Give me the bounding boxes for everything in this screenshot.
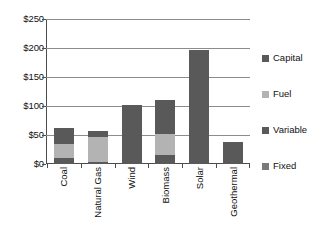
- y-axis-tick-label: $0: [0, 159, 44, 169]
- y-axis-tick-mark: [42, 164, 46, 165]
- bar-segment-fuel: [155, 134, 175, 155]
- bar-segment-fuel: [54, 144, 74, 159]
- y-axis-tick-label: $250: [0, 14, 44, 24]
- plot-area: [46, 19, 250, 164]
- legend-swatch-icon: [262, 163, 269, 170]
- x-label-slot: Natural Gas: [81, 167, 115, 239]
- x-axis-tick-labels: CoalNatural GasWindBiomassSolarGeotherma…: [47, 167, 251, 239]
- bar-solar[interactable]: [189, 50, 209, 164]
- y-axis-tick-mark: [42, 77, 46, 78]
- legend-label: Fixed: [273, 161, 296, 171]
- bar-segment-fuel: [88, 137, 108, 162]
- y-axis-tick-mark: [42, 19, 46, 20]
- legend-swatch-icon: [262, 91, 269, 98]
- bar-slot: [81, 19, 115, 164]
- bar-group: [47, 19, 250, 164]
- bar-segment-variable: [54, 158, 74, 164]
- y-axis-tick-label: $200: [0, 43, 44, 53]
- bar-segment-capital: [155, 100, 175, 134]
- y-axis-tick-mark: [42, 135, 46, 136]
- bar-slot: [115, 19, 149, 164]
- bar-segment-variable: [88, 162, 108, 164]
- legend-label: Fuel: [273, 89, 291, 99]
- y-axis-tick-mark: [42, 106, 46, 107]
- x-label-slot: Coal: [47, 167, 81, 239]
- x-axis-label-wind: Wind: [127, 167, 137, 189]
- bar-geothermal[interactable]: [223, 142, 243, 164]
- x-axis-label-natural-gas: Natural Gas: [93, 167, 103, 218]
- legend-label: Variable: [273, 125, 307, 135]
- x-axis-label-solar: Solar: [195, 167, 205, 189]
- bar-segment-capital: [122, 105, 142, 164]
- bar-segment-capital: [54, 128, 74, 144]
- legend-label: Capital: [273, 53, 303, 63]
- legend-item-fixed[interactable]: Fixed: [262, 148, 328, 184]
- legend-swatch-icon: [262, 55, 269, 62]
- chart-legend: CapitalFuelVariableFixed: [262, 40, 328, 184]
- bar-slot: [148, 19, 182, 164]
- x-label-slot: Geothermal: [217, 167, 251, 239]
- x-axis-label-coal: Coal: [59, 167, 69, 187]
- y-axis-tick-mark: [42, 48, 46, 49]
- y-axis-tick-label: $150: [0, 72, 44, 82]
- x-label-slot: Wind: [115, 167, 149, 239]
- bar-slot: [47, 19, 81, 164]
- legend-item-fuel[interactable]: Fuel: [262, 76, 328, 112]
- legend-item-variable[interactable]: Variable: [262, 112, 328, 148]
- x-axis-label-biomass: Biomass: [161, 167, 171, 203]
- bar-segment-capital: [189, 50, 209, 164]
- bar-wind[interactable]: [122, 105, 142, 164]
- legend-item-capital[interactable]: Capital: [262, 40, 328, 76]
- bar-slot: [182, 19, 216, 164]
- bar-biomass[interactable]: [155, 100, 175, 164]
- bar-natural-gas[interactable]: [88, 131, 108, 164]
- bar-segment-capital: [223, 142, 243, 164]
- bar-slot: [216, 19, 250, 164]
- x-label-slot: Solar: [183, 167, 217, 239]
- y-axis-tick-label: $50: [0, 130, 44, 140]
- bar-coal[interactable]: [54, 128, 74, 164]
- y-axis-tick-label: $100: [0, 101, 44, 111]
- stacked-bar-chart: $250$200$150$100$50$0 CoalNatural GasWin…: [0, 0, 328, 240]
- x-axis-label-geothermal: Geothermal: [229, 167, 239, 217]
- x-label-slot: Biomass: [149, 167, 183, 239]
- bar-segment-variable: [155, 155, 175, 164]
- legend-swatch-icon: [262, 127, 269, 134]
